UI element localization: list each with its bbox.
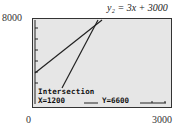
line-y2 [35, 20, 102, 73]
line-y1 [62, 20, 98, 88]
y-readout: Y=6600 [102, 96, 129, 105]
intersection-label: Intersection [38, 87, 95, 96]
x-axis-max-label: 3000 [152, 114, 172, 125]
y-axis-max-label: 8000 [2, 12, 22, 23]
x-axis-min-label: 0 [26, 114, 31, 125]
x-readout: X=1200 [38, 96, 65, 105]
equation-y2-label: y₂ = 3x + 3000 [107, 2, 168, 13]
